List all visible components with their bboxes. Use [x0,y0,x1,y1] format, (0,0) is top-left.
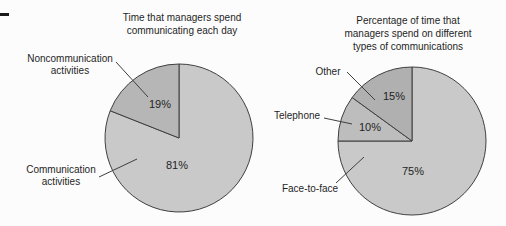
value-label-10-percent: 10% [359,121,381,133]
label-noncommunication-activities: Noncommunication activities [12,53,128,77]
label-other: Other [305,66,351,78]
left-chart-title: Time that managers spend communicating e… [107,11,257,37]
value-label-81-percent: 81% [166,159,188,171]
value-label-15-percent: 15% [383,90,405,102]
label-face-to-face: Face-to-face [269,183,351,195]
label-telephone: Telephone [259,110,335,122]
label-communication-activities: Communication activities [13,164,109,188]
right-chart-title: Percentage of time that managers spend o… [333,14,483,53]
value-label-19-percent: 19% [149,98,171,110]
figure-canvas: Time that managers spend communicating e… [0,0,506,226]
value-label-75-percent: 75% [402,165,424,177]
